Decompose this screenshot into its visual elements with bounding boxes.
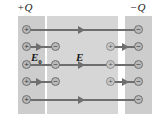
field-line-long-bottom-arrow	[78, 96, 85, 104]
label-applied-field-subscript: 0	[38, 58, 42, 66]
slab-left-face-charge: −	[51, 77, 60, 86]
slab-right-face-charge-symbol: +	[108, 43, 113, 51]
field-line-short-upper-right-arrow	[122, 43, 129, 51]
right-plate-charge: −	[134, 42, 143, 51]
slab-right-face-charge: +	[106, 42, 115, 51]
label-applied-field: E0	[31, 51, 42, 66]
slab-right-face-charge: +	[106, 77, 115, 86]
right-plate-charge: −	[134, 77, 143, 86]
left-plate-charge: +	[22, 60, 31, 69]
label-net-field-symbol: E	[76, 51, 83, 63]
label-negative-charge: −Q	[130, 1, 145, 13]
slab-left-face-charge-symbol: −	[53, 78, 58, 86]
slab-left-face-charge: −	[51, 60, 60, 69]
right-plate-charge: −	[134, 95, 143, 104]
label-negative-charge-text: −Q	[130, 1, 145, 13]
left-plate-charge: +	[22, 42, 31, 51]
label-positive-charge: +Q	[17, 1, 32, 13]
right-plate-charge: −	[134, 25, 143, 34]
slab-right-face-charge-symbol: +	[108, 61, 113, 69]
label-positive-charge-text: +Q	[17, 1, 32, 13]
left-plate-charge-symbol: +	[24, 43, 29, 51]
field-line-long-top-arrow	[78, 26, 85, 34]
slab-left-face-charge-symbol: −	[53, 61, 58, 69]
left-plate-charge-symbol: +	[24, 61, 29, 69]
right-plate-charge-symbol: −	[136, 43, 141, 51]
left-plate-charge-symbol: +	[24, 26, 29, 34]
field-line-short-lower-left-arrow	[36, 78, 43, 86]
slab-right-face-charge: +	[106, 60, 115, 69]
field-line-short-upper-left-arrow	[36, 43, 43, 51]
slab-left-face-charge-symbol: −	[53, 43, 58, 51]
left-plate-charge-symbol: +	[24, 78, 29, 86]
slab-right-face-charge-symbol: +	[108, 78, 113, 86]
left-plate-charge-symbol: +	[24, 96, 29, 104]
field-line-short-lower-right-arrow	[122, 78, 129, 86]
label-net-field: E	[76, 51, 83, 63]
capacitor-dielectric-figure: + + + + + − − − − − − − − + + + +Q −Q E0…	[0, 0, 157, 121]
left-plate-charge: +	[22, 77, 31, 86]
right-plate-charge-symbol: −	[136, 78, 141, 86]
left-plate-charge: +	[22, 95, 31, 104]
left-plate-charge: +	[22, 25, 31, 34]
right-plate-charge-symbol: −	[136, 26, 141, 34]
right-plate-charge: −	[134, 60, 143, 69]
right-plate-charge-symbol: −	[136, 96, 141, 104]
slab-left-face-charge: −	[51, 42, 60, 51]
right-plate-charge-symbol: −	[136, 61, 141, 69]
